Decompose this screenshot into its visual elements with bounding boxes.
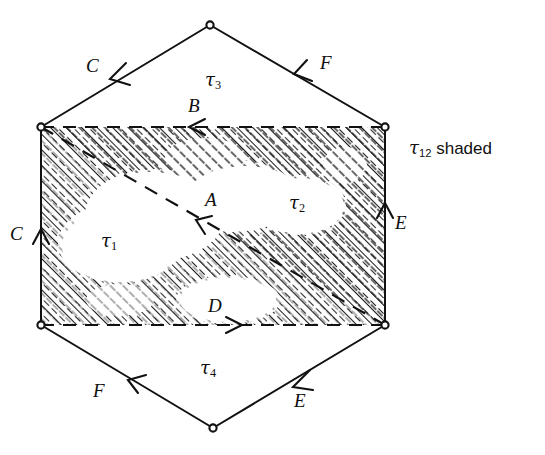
tau-subscript: 4 <box>210 366 216 380</box>
vertex-upper-right <box>381 123 388 130</box>
edge-label-b: B <box>188 96 200 115</box>
tau-subscript: 1 <box>111 239 117 253</box>
hexagon-edge-lower-left <box>41 325 213 428</box>
vertex-lower-right <box>381 321 388 328</box>
tau-glyph: τ <box>289 192 299 213</box>
caption-text: shaded <box>436 139 492 158</box>
hexagon-edge-upper-left <box>41 25 210 127</box>
edge-label-d: D <box>208 296 222 315</box>
tau-glyph: τ <box>101 230 111 251</box>
edge-label-e-bottom: E <box>294 391 306 410</box>
vertex-bottom <box>209 424 216 431</box>
vertex-lower-left <box>37 321 44 328</box>
figure-container: C F B A C E D F E τ1 τ2 τ3 τ4 τ12 shaded <box>0 0 545 455</box>
edge-label-c-top: C <box>86 56 99 75</box>
shaded-caption: τ12 shaded <box>409 139 492 159</box>
edge-label-f-top: F <box>320 53 332 72</box>
arrowhead-f-top <box>294 60 312 81</box>
edge-label-a: A <box>205 190 217 209</box>
edge-label-f-bottom: F <box>93 381 105 400</box>
hexagon-figure-svg <box>0 0 545 455</box>
edge-label-c-left: C <box>10 224 23 243</box>
hexagon-edge-lower-right <box>213 325 385 428</box>
region-label-tau2: τ2 <box>289 194 305 215</box>
tau-subscript: 2 <box>299 201 305 215</box>
edge-label-e-right: E <box>395 213 407 232</box>
region-label-tau1: τ1 <box>101 232 117 253</box>
tau-glyph: τ <box>409 137 419 158</box>
region-label-tau3: τ3 <box>205 71 221 92</box>
vertex-top <box>206 21 213 28</box>
tau-subscript: 3 <box>215 78 221 92</box>
tau-glyph: τ <box>205 69 215 90</box>
tau-subscript: 12 <box>419 147 431 159</box>
region-label-tau4: τ4 <box>200 359 216 380</box>
vertex-upper-left <box>37 123 44 130</box>
tau-glyph: τ <box>200 357 210 378</box>
